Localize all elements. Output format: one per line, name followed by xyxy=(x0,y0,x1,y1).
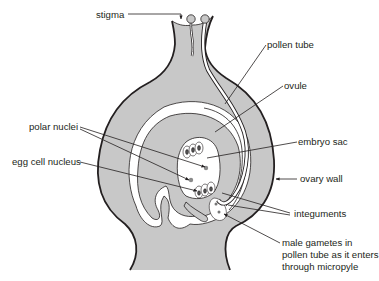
pollen-grain-2 xyxy=(201,15,209,23)
label-ovary-wall: ovary wall xyxy=(300,173,343,184)
label-male-gametes-line1: male gametes in xyxy=(282,237,379,249)
label-polar-nuclei: polar nuclei xyxy=(29,121,78,132)
male-gamete-2 xyxy=(218,211,221,214)
label-stigma: stigma xyxy=(96,9,124,20)
label-male-gametes-line2: pollen tube as it enters xyxy=(282,249,379,261)
label-egg-cell-nucleus: egg cell nucleus xyxy=(12,156,81,167)
label-pollen-tube: pollen tube xyxy=(267,39,314,50)
polar-nucleus-2 xyxy=(189,178,193,182)
label-ovule: ovule xyxy=(284,80,307,91)
label-male-gametes: male gametes in pollen tube as it enters… xyxy=(282,237,379,273)
label-integuments: integuments xyxy=(294,208,346,219)
male-gamete-1 xyxy=(215,203,218,206)
pollen-grain-1 xyxy=(187,15,195,23)
label-male-gametes-line3: through micropyle xyxy=(282,261,379,273)
label-embryo-sac: embryo sac xyxy=(298,136,348,147)
